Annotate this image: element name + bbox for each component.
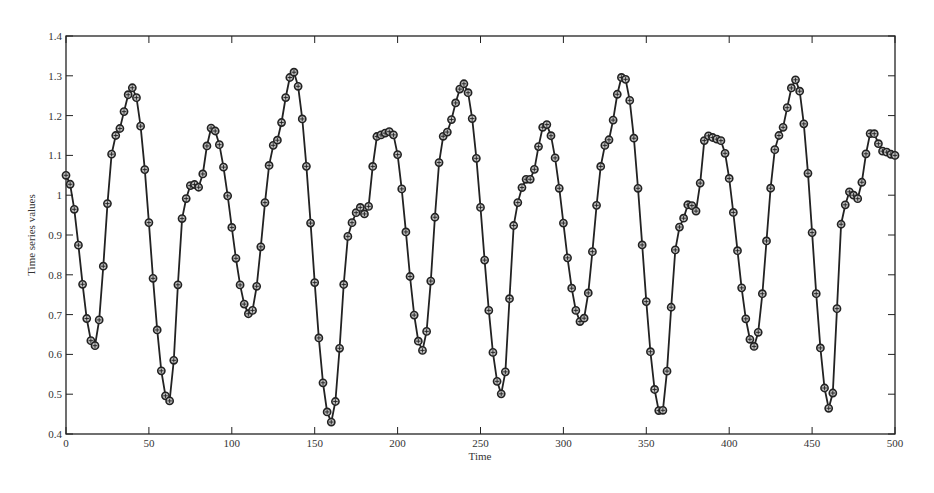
data-point-marker [481, 257, 488, 264]
data-point-marker [365, 203, 372, 210]
y-tick-label: 1.4 [48, 30, 62, 42]
data-point-marker [626, 97, 633, 104]
y-tick-label: 1 [57, 189, 63, 201]
line-chart: 050100150200250300350400450500 0.40.50.6… [0, 0, 934, 493]
data-point-marker [833, 305, 840, 312]
data-point-marker [750, 343, 757, 350]
data-point-marker [659, 407, 666, 414]
data-point-marker [178, 215, 185, 222]
data-point-marker [133, 94, 140, 101]
data-point-marker [166, 397, 173, 404]
data-point-marker [328, 418, 335, 425]
data-point-marker [62, 172, 69, 179]
plot-area [66, 36, 895, 434]
y-tick-label: 1.2 [48, 110, 62, 122]
x-tick-label: 500 [887, 437, 904, 449]
data-point-marker [75, 242, 82, 249]
data-point-marker [622, 76, 629, 83]
y-tick-label: 0.9 [48, 229, 62, 241]
data-point-marker [564, 254, 571, 261]
data-point-marker [120, 108, 127, 115]
data-point-marker [676, 223, 683, 230]
data-point-marker [767, 185, 774, 192]
data-point-marker [581, 315, 588, 322]
x-tick-label: 50 [143, 437, 155, 449]
data-point-marker [427, 277, 434, 284]
data-point-marker [464, 89, 471, 96]
data-point-marker [174, 281, 181, 288]
data-point-marker [585, 289, 592, 296]
data-point-marker [220, 164, 227, 171]
data-point-marker [738, 284, 745, 291]
data-point-marker [129, 84, 136, 91]
data-point-marker [419, 347, 426, 354]
data-point-marker [792, 76, 799, 83]
data-point-marker [473, 155, 480, 162]
data-point-marker [406, 273, 413, 280]
data-point-marker [547, 132, 554, 139]
data-point-marker [871, 130, 878, 137]
data-point-marker [444, 128, 451, 135]
data-point-marker [804, 170, 811, 177]
series-line [66, 72, 895, 422]
data-point-marker [742, 315, 749, 322]
data-point-marker [775, 132, 782, 139]
data-point-marker [838, 221, 845, 228]
data-point-marker [319, 379, 326, 386]
data-point-marker [531, 166, 538, 173]
data-point-marker [141, 166, 148, 173]
y-tick-label: 0.4 [48, 428, 62, 440]
data-point-marker [506, 295, 513, 302]
data-point-marker [116, 125, 123, 132]
data-point-marker [680, 215, 687, 222]
data-point-marker [589, 248, 596, 255]
data-point-marker [212, 127, 219, 134]
data-point-marker [493, 378, 500, 385]
data-point-marker [825, 405, 832, 412]
x-tick-label: 250 [472, 437, 489, 449]
data-point-marker [510, 222, 517, 229]
data-point-marker [726, 175, 733, 182]
data-point-marker [282, 94, 289, 101]
data-point-marker [274, 137, 281, 144]
data-point-marker [721, 150, 728, 157]
data-point-marker [634, 185, 641, 192]
data-point-marker [369, 163, 376, 170]
data-point-marker [556, 185, 563, 192]
data-point-marker [216, 141, 223, 148]
data-point-marker [614, 91, 621, 98]
data-point-marker [224, 192, 231, 199]
data-point-marker [829, 389, 836, 396]
data-point-marker [518, 184, 525, 191]
data-point-marker [149, 275, 156, 282]
data-point-marker [390, 131, 397, 138]
data-point-marker [71, 206, 78, 213]
data-point-marker [821, 384, 828, 391]
data-point-marker [779, 124, 786, 131]
data-point-marker [195, 184, 202, 191]
data-point-marker [303, 163, 310, 170]
data-point-marker [236, 281, 243, 288]
data-point-marker [809, 229, 816, 236]
data-point-marker [891, 152, 898, 159]
x-tick-label: 350 [638, 437, 655, 449]
data-point-marker [344, 233, 351, 240]
data-point-marker [651, 386, 658, 393]
data-point-marker [813, 290, 820, 297]
data-point-marker [610, 116, 617, 123]
data-point-marker [394, 151, 401, 158]
data-point-marker [295, 83, 302, 90]
data-point-marker [485, 307, 492, 314]
data-point-marker [692, 208, 699, 215]
data-point-marker [315, 334, 322, 341]
x-tick-label: 300 [555, 437, 572, 449]
data-point-marker [597, 163, 604, 170]
data-point-marker [435, 159, 442, 166]
data-point-marker [108, 151, 115, 158]
data-point-marker [170, 357, 177, 364]
data-point-marker [630, 135, 637, 142]
x-tick-label: 400 [721, 437, 738, 449]
data-point-marker [249, 307, 256, 314]
x-tick-label: 200 [389, 437, 406, 449]
y-tick-label: 1.1 [48, 149, 62, 161]
